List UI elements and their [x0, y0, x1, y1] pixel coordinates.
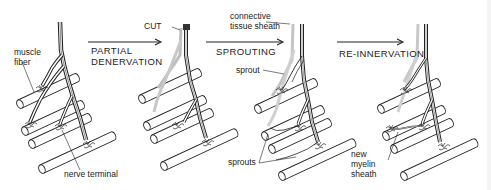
nerve-reinnervation-diagram: muscle fiber nerve terminal PARTIAL DENE…: [0, 0, 491, 190]
label-connective-1: connective: [230, 12, 271, 21]
stage-label-sprouting: SPROUTING: [216, 47, 276, 57]
label-muscle-fiber-2: fiber: [14, 58, 31, 67]
label-sprouts: sprouts: [228, 158, 256, 167]
label-connective-2: tissue sheath: [230, 22, 280, 31]
label-new-myelin-2: myelin: [351, 160, 376, 169]
label-muscle-fiber-1: muscle: [14, 48, 41, 57]
stage-label-re-innervation: RE-INNERVATION: [339, 49, 424, 59]
label-new-myelin-1: new: [351, 150, 367, 159]
label-nerve-terminal: nerve terminal: [64, 170, 118, 179]
stage-label-denervation: DENERVATION: [91, 57, 162, 67]
stage-label-partial: PARTIAL: [91, 46, 133, 56]
label-cut: CUT: [144, 22, 161, 31]
image-edge: [487, 0, 491, 190]
label-new-myelin-3: sheath: [351, 170, 377, 179]
label-sprout: sprout: [236, 66, 260, 75]
